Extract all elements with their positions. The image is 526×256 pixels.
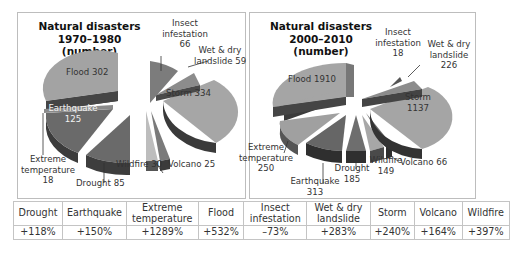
- chart-panel-1970-1980: Natural disasters 1970–1980 (number): [17, 12, 246, 199]
- label-wildfire: Wildfire149: [368, 155, 404, 176]
- value-cell: +532%: [198, 226, 244, 240]
- value-cell: –73%: [244, 226, 307, 240]
- table-value-row: +118% +150% +1289% +532% –73% +283% +240…: [14, 226, 510, 240]
- label-storm: Storm 334: [166, 88, 211, 99]
- value-cell: +150%: [63, 226, 127, 240]
- header-cell: Volcano: [414, 202, 462, 226]
- label-landslide: Wet & drylandslide226: [426, 39, 472, 71]
- header-cell: Wet & drylandslide: [307, 202, 371, 226]
- header-cell: Drought: [14, 202, 63, 226]
- header-cell: Extremetemperature: [126, 202, 198, 226]
- value-cell: +1289%: [126, 226, 198, 240]
- label-landslide: Wet & drylandslide 59: [194, 45, 246, 66]
- header-cell: Insectinfestation: [244, 202, 307, 226]
- label-volcano: Volcano 25: [168, 159, 215, 170]
- label-drought: Drought 85: [76, 178, 125, 189]
- value-cell: +283%: [307, 226, 371, 240]
- header-cell: Earthquake: [63, 202, 127, 226]
- table-header-row: Drought Earthquake Extremetemperature Fl…: [14, 202, 510, 226]
- label-volcano: Volcano 66: [400, 157, 447, 168]
- slice-flood: [273, 63, 354, 121]
- header-cell: Storm: [370, 202, 414, 226]
- label-flood: Flood 1910: [288, 74, 336, 85]
- percent-change-table: Drought Earthquake Extremetemperature Fl…: [13, 201, 510, 240]
- value-cell: +164%: [414, 226, 462, 240]
- header-cell: Flood: [198, 202, 244, 226]
- label-extreme-temperature: Extremetemperature250: [238, 142, 294, 174]
- slice-insect-infestation: [390, 77, 402, 87]
- value-cell: +240%: [370, 226, 414, 240]
- value-cell: +397%: [462, 226, 509, 240]
- label-flood: Flood 302: [66, 67, 108, 78]
- slice-drought: [346, 115, 366, 163]
- label-wildfire: Wildfire 30: [116, 159, 162, 170]
- slice-flood: [43, 50, 118, 111]
- label-storm: Storm1137: [398, 92, 438, 113]
- header-cell: Wildfire: [462, 202, 509, 226]
- label-insect: Insectinfestation18: [372, 27, 424, 59]
- chart-panel-2000-2010: Natural disasters 2000–2010 (number): [249, 12, 476, 199]
- label-extreme-temperature: Extremetemperature18: [20, 154, 76, 186]
- label-earthquake: Earthquake125: [48, 103, 98, 124]
- label-drought: Drought185: [333, 163, 371, 184]
- value-cell: +118%: [14, 226, 63, 240]
